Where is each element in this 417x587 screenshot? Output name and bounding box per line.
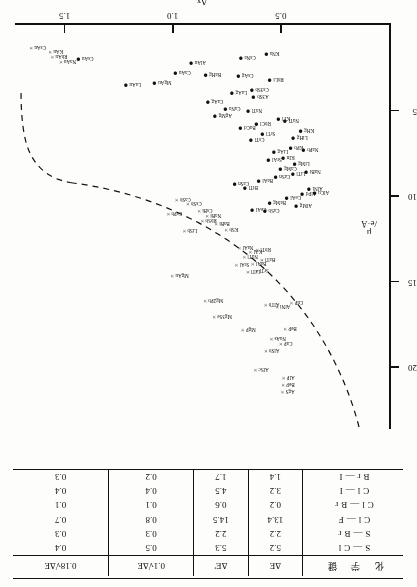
data-point-label: AlCu — [318, 190, 329, 195]
table-row: Cl—F13.414.50.80.7 — [13, 512, 403, 526]
cross-marker-icon: × — [255, 267, 259, 274]
data-point-label: RbLi — [273, 77, 283, 82]
table-top-rule — [13, 576, 403, 579]
filled-circle-marker-icon: ● — [266, 156, 271, 164]
filled-circle-marker-icon: ● — [250, 206, 255, 214]
cross-marker-icon: × — [290, 300, 294, 307]
data-point-label: RbAu — [55, 54, 67, 59]
cross-marker-icon: × — [246, 269, 250, 276]
data-point: CaP × — [279, 341, 292, 348]
header-delta-e: ΔE — [248, 556, 302, 577]
coef-018-cell: 0.1 — [13, 498, 109, 512]
filled-circle-marker-icon: ● — [291, 134, 296, 142]
data-point: MgAu × — [170, 272, 188, 279]
data-point-label: RbCl — [260, 121, 271, 126]
data-point-label: KHg — [304, 128, 314, 133]
bond-cell: Cl—F — [303, 512, 404, 526]
y-tick-label: 20 — [408, 363, 417, 373]
delta-e-cell: 13.4 — [248, 512, 302, 526]
data-point: CaAg ● — [205, 98, 223, 106]
cross-marker-icon: × — [260, 257, 264, 264]
data-point: KPb ● — [288, 144, 303, 152]
delta-e-cell: 2.2 — [248, 527, 302, 541]
data-point: AlAu ● — [189, 59, 206, 67]
filled-circle-marker-icon: ● — [276, 115, 281, 123]
delta-e-cell: 3.2 — [248, 484, 302, 498]
cross-marker-icon: × — [281, 382, 285, 389]
cross-marker-icon: × — [224, 226, 228, 233]
data-point: SrTl × — [255, 267, 269, 274]
data-point-label: NaTl — [289, 118, 299, 123]
data-point-label: RbTl — [260, 247, 270, 252]
header-coef-018: 0.18√ΔE — [13, 556, 109, 577]
data-point: CsAg ● — [236, 72, 254, 80]
data-point-label: CsTl — [254, 137, 264, 142]
data-point: MgAu ● — [152, 79, 171, 87]
bond-energy-table: 化 学 键 ΔE ΔE' 0.1√ΔE 0.18√ΔE S—Cl5.25.30.… — [13, 469, 403, 579]
data-point-label: BeP — [286, 382, 295, 387]
data-point: LiHg ● — [291, 134, 308, 142]
table-row: Br—I1.41.70.20.3 — [13, 469, 403, 484]
cross-marker-icon: × — [241, 327, 245, 334]
delta-e-prime-cell: 5.3 — [194, 541, 248, 556]
table-body: S—Cl5.25.30.50.4S—Br2.22.20.30.3Cl—F13.4… — [13, 469, 403, 555]
data-point-label: CsAu — [34, 45, 46, 50]
delta-e-cell: 1.4 — [248, 469, 302, 484]
filled-circle-marker-icon: ● — [236, 72, 241, 80]
filled-circle-marker-icon: ● — [273, 173, 278, 181]
data-point: RbLi ● — [267, 76, 284, 84]
filled-circle-marker-icon: ● — [278, 165, 283, 173]
data-point: CaAu ● — [173, 69, 191, 77]
data-point-label: AgS — [286, 389, 295, 394]
data-point-label: CuP — [295, 300, 304, 305]
cross-marker-icon: × — [214, 221, 218, 228]
filled-circle-marker-icon: ● — [189, 59, 194, 67]
data-point: NaTl ● — [246, 107, 263, 115]
coef-018-cell: 0.3 — [13, 469, 109, 484]
data-point: SrAl ● — [266, 156, 282, 164]
data-point: RbCl ● — [254, 120, 271, 128]
filled-circle-marker-icon: ● — [267, 199, 272, 207]
data-point-label: KSb — [229, 226, 238, 231]
data-point-label: NaTl — [252, 107, 262, 112]
data-point: SrAl × — [235, 262, 250, 269]
bond-cell: S—Cl — [303, 541, 404, 556]
data-point-label: CsPb — [171, 211, 182, 216]
data-point-label: LiAg — [277, 149, 288, 154]
cross-marker-icon: × — [201, 218, 205, 225]
data-point-label: NaTl — [247, 254, 257, 259]
bond-cell: Cl—I — [303, 484, 404, 498]
data-point-label: CaAu — [179, 70, 191, 75]
data-point-label: BeP — [288, 326, 297, 331]
y-tick-label: 10 — [408, 192, 417, 202]
data-point: BeP × — [281, 382, 294, 389]
data-point: AlSc × — [254, 366, 269, 373]
data-point-label: BaCd — [244, 125, 256, 130]
data-point: RbAu × — [50, 53, 67, 60]
data-point-label: CsNa — [244, 54, 255, 59]
data-point: CsPb × — [167, 211, 183, 218]
cross-marker-icon: × — [29, 45, 33, 52]
data-point-label: CeAl — [290, 195, 301, 200]
data-point-label: LaAg — [235, 90, 247, 95]
data-table-block: 化 学 键 ΔE ΔE' 0.1√ΔE 0.18√ΔE S—Cl5.25.30.… — [13, 469, 403, 579]
data-point-label: LiHg — [297, 135, 308, 140]
data-point: NaTl × — [243, 253, 258, 260]
x-axis-title: Δx — [197, 0, 207, 7]
data-point: AlMg ● — [294, 202, 312, 210]
data-point-label: CaSb — [180, 197, 191, 202]
filled-circle-marker-icon: ● — [271, 148, 276, 156]
table-row: Cl—I3.24.50.40.4 — [13, 484, 403, 498]
data-point: AgS × — [281, 389, 295, 396]
data-point: LaAu ● — [123, 81, 141, 89]
table-row: Cl—Br0.20.60.10.1 — [13, 498, 403, 512]
coef-01-cell: 0.5 — [109, 541, 194, 556]
filled-circle-marker-icon: ● — [238, 54, 243, 62]
delta-e-cell: 0.2 — [248, 498, 302, 512]
data-point-label: KNa — [270, 51, 280, 56]
header-coef-01: 0.1√ΔE — [109, 556, 194, 577]
data-point: A3Sb ● — [251, 93, 269, 101]
data-point: AgMg ● — [213, 112, 232, 120]
data-point-label: LiMg — [298, 160, 310, 165]
data-point: CuP × — [290, 300, 304, 307]
